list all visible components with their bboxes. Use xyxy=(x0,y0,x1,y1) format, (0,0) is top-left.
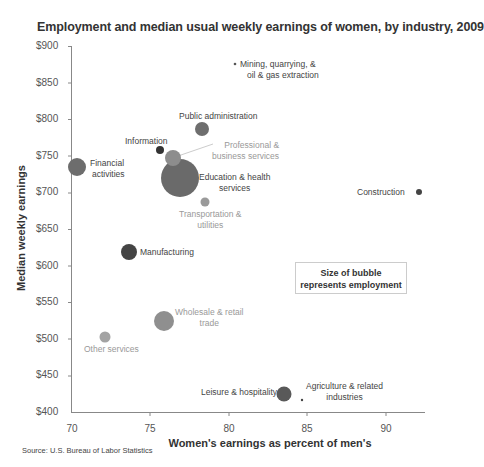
bubble-information xyxy=(156,146,164,154)
bubble-education-health xyxy=(161,159,199,197)
label-mining: Mining, quarrying, & oil & gas extractio… xyxy=(240,59,319,81)
bubble-size-note: Size of bubble represents employment xyxy=(295,262,407,294)
bubble-leisure xyxy=(277,387,292,402)
label-transportation: Transportation & utilities xyxy=(179,209,242,231)
bubble-public-administration xyxy=(195,122,209,136)
label-other-services: Other services xyxy=(84,344,139,355)
label-agriculture: Agriculture & related industries xyxy=(306,381,383,403)
label-public-administration: Public administration xyxy=(179,111,257,122)
bubble-other-services xyxy=(100,332,111,343)
label-professional: Professional & business services xyxy=(212,140,279,162)
label-leisure: Leisure & hospitality xyxy=(201,387,277,398)
label-education-health: Education & health services xyxy=(199,172,270,194)
bubble-construction xyxy=(416,189,422,195)
bubble-agriculture xyxy=(301,399,303,401)
bubble-wholesale xyxy=(154,311,174,331)
bubble-manufacturing xyxy=(121,244,137,260)
label-information: Information xyxy=(125,136,168,147)
bubble-financial xyxy=(68,158,86,176)
label-wholesale: Wholesale & retail trade xyxy=(175,307,244,329)
label-financial: Financial activities xyxy=(90,158,125,180)
bubble-mining xyxy=(234,63,237,66)
label-manufacturing: Manufacturing xyxy=(140,247,194,258)
bubble-transportation xyxy=(201,198,210,207)
bubble-professional xyxy=(165,150,181,166)
label-construction: Construction xyxy=(357,187,405,198)
